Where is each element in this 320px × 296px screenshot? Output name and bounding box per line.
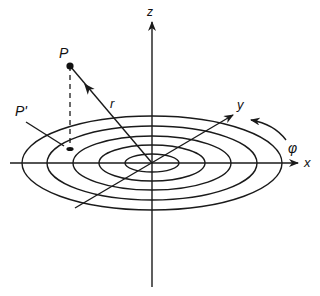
point-p-prime [66,147,73,151]
radius-vector [70,66,152,163]
point-p [66,62,73,69]
z-label: z [146,5,153,19]
r-label: r [110,96,115,111]
cylindrical-coordinates-diagram: z x y P P' r φ [0,0,320,296]
x-label: x [303,155,311,170]
p-label: P [59,45,69,61]
p-prime-label: P' [15,103,28,119]
y-label: y [236,97,245,112]
p-prime-pointer [26,122,64,146]
phi-arc [251,120,286,140]
phi-label: φ [288,140,297,156]
